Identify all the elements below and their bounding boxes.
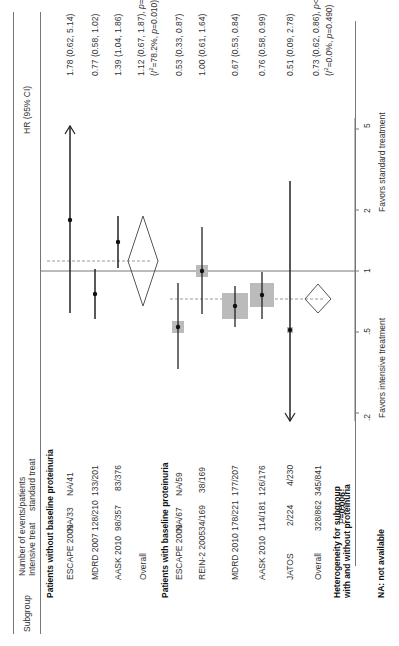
plot-area [0,0,399,646]
g1-mdrd-ci [93,269,97,319]
g2-escape-ci [172,283,184,369]
g2-mdrd-ci [222,286,248,327]
g2-aask-ci [250,272,274,319]
g1-escape-ci [65,126,75,313]
g2-jatos-ci [285,181,295,421]
g2-rein-ci [196,227,208,314]
forest-plot: Subgroup Number of events/patients Inten… [0,0,399,646]
g1-aask-ci [116,216,120,268]
